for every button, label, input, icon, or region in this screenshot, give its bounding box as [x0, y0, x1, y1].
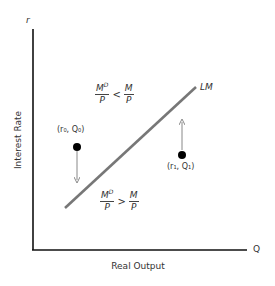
- point-r0-q0: [73, 143, 81, 151]
- superscript: D: [109, 188, 114, 195]
- point-r1-q1: [178, 151, 186, 159]
- numerator: M: [129, 191, 139, 202]
- excess-demand-inequality: MD P > M P: [100, 191, 139, 212]
- y-axis-symbol: r: [26, 16, 30, 25]
- denominator: P: [104, 202, 109, 212]
- numerator: M: [96, 83, 104, 93]
- lm-diagram: r Q Interest Rate Real Output LM (r₀, Q₀…: [0, 0, 275, 286]
- numerator: M: [101, 190, 109, 200]
- point-r0-q0-label: (r₀, Q₀): [57, 126, 84, 134]
- money-demand-fraction: MD P: [100, 191, 114, 212]
- denominator: P: [99, 95, 104, 105]
- money-demand-fraction: MD P: [95, 84, 109, 105]
- superscript: D: [104, 81, 109, 88]
- greater-than-operator: >: [117, 196, 125, 207]
- diagram-canvas: [0, 0, 275, 286]
- numerator: M: [124, 84, 134, 95]
- lm-curve-label: LM: [200, 83, 213, 92]
- money-supply-fraction: M P: [124, 84, 134, 105]
- less-than-operator: <: [112, 89, 120, 100]
- x-axis-label: Real Output: [111, 262, 165, 271]
- point-r1-q1-label: (r₁, Q₁): [167, 163, 194, 171]
- denominator: P: [126, 95, 131, 105]
- excess-supply-inequality: MD P < M P: [95, 84, 134, 105]
- x-axis-symbol: Q: [253, 245, 260, 254]
- y-axis-label: Interest Rate: [14, 111, 23, 169]
- denominator: P: [131, 202, 136, 212]
- money-supply-fraction: M P: [129, 191, 139, 212]
